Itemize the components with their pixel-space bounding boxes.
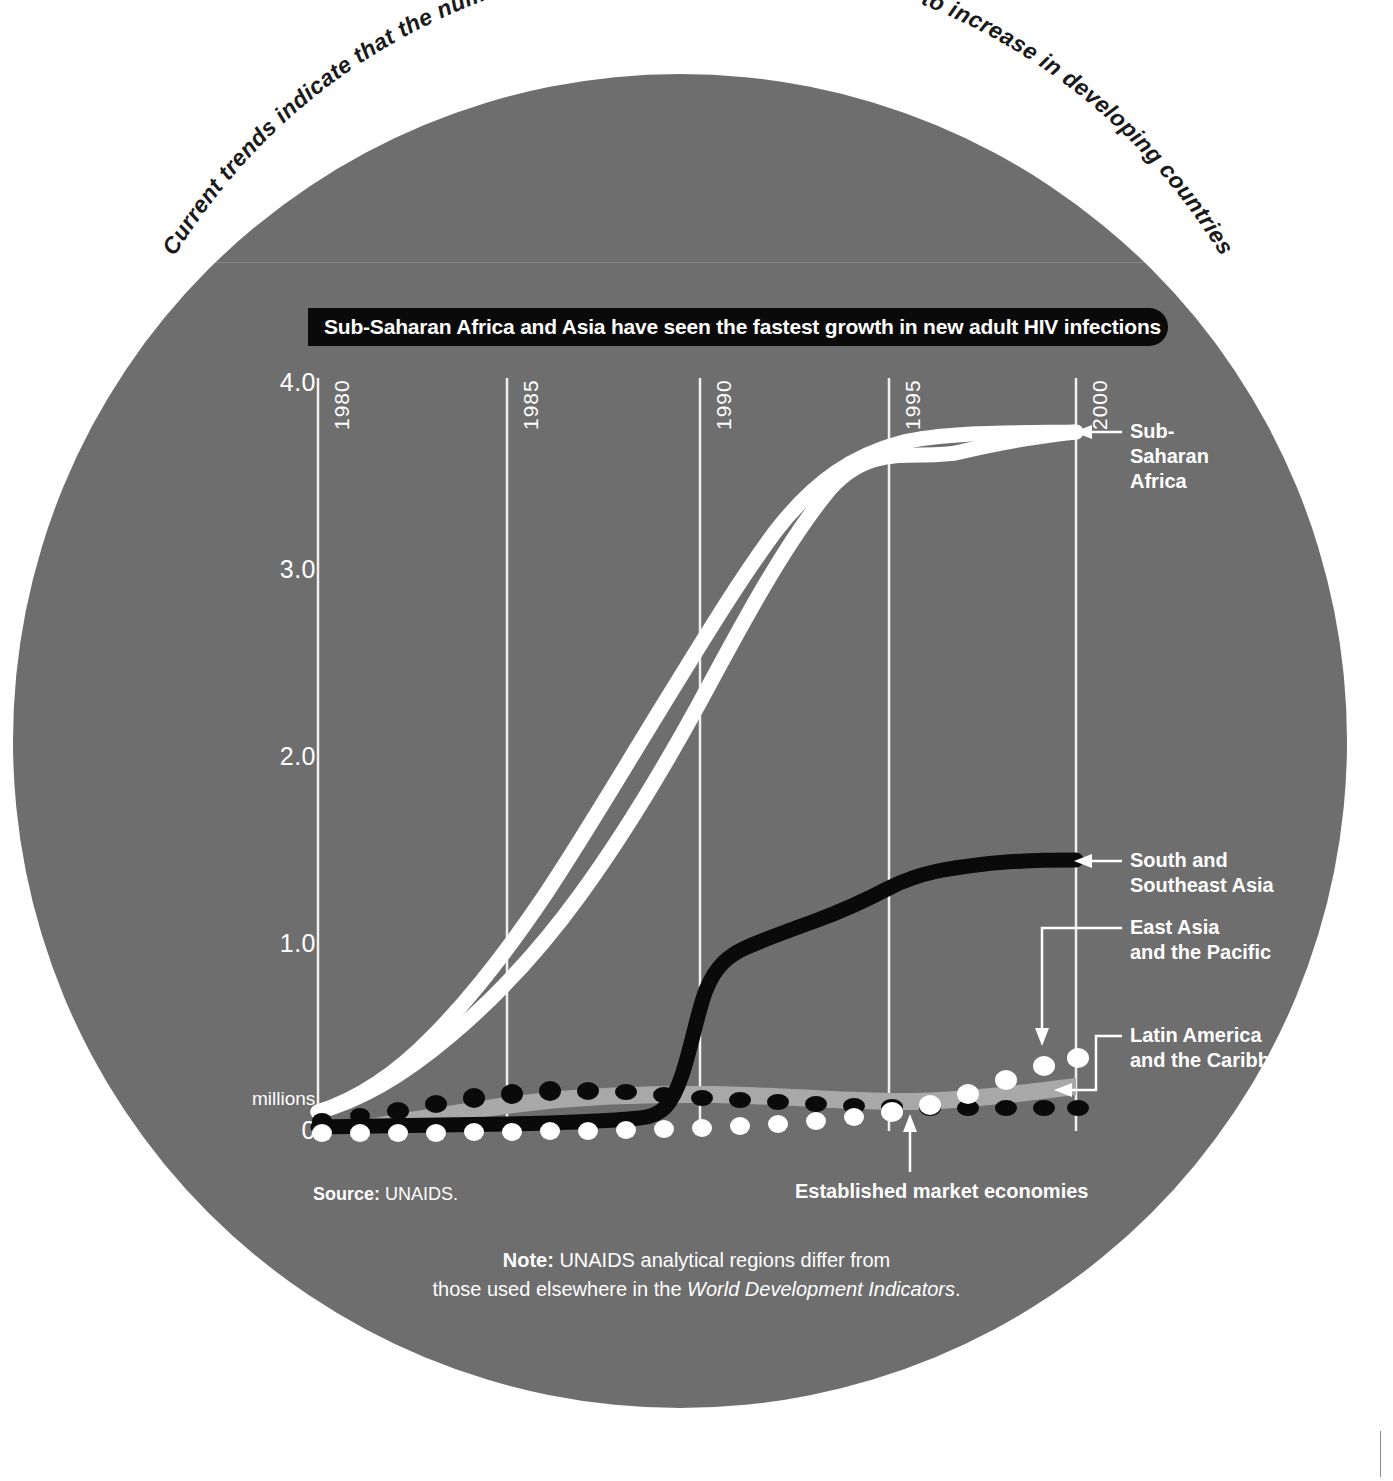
gray-circle-background (13, 74, 1347, 1408)
registration-mark (1380, 1431, 1381, 1477)
y-tick-4: 4.0 (246, 368, 316, 397)
x-tick-1980: 1980 (330, 379, 354, 430)
chart-title-bar: Sub-Saharan Africa and Asia have seen th… (308, 308, 1168, 346)
note-block: Note: UNAIDS analytical regions differ f… (0, 1246, 1393, 1304)
note-line-2: those used elsewhere in the World Develo… (0, 1275, 1393, 1304)
note-line-1: Note: UNAIDS analytical regions differ f… (0, 1246, 1393, 1275)
note-publication-title: World Development Indicators (687, 1278, 955, 1300)
note-label: Note: (503, 1249, 554, 1271)
callout-established-market-economies: Established market economies (795, 1180, 1088, 1203)
hiv-infections-figure: Current trends indicate that the number … (0, 0, 1393, 1481)
scan-artifact-line (310, 160, 1110, 161)
note-line2-post: . (955, 1278, 961, 1300)
source-line: Source: UNAIDS. (313, 1184, 458, 1205)
callout-latin-america-caribbean: Latin America and the Caribbean (1130, 1023, 1304, 1073)
y-tick-1: 1.0 (246, 929, 316, 958)
source-value: UNAIDS. (385, 1184, 458, 1204)
callout-south-southeast-asia: South and Southeast Asia (1130, 848, 1274, 898)
y-tick-3: 3.0 (246, 555, 316, 584)
y-tick-2: 2.0 (246, 742, 316, 771)
callout-sub-saharan-africa: Sub- Saharan Africa (1130, 419, 1209, 494)
note-line2-pre: those used elsewhere in the (432, 1278, 687, 1300)
y-tick-0: 0 (246, 1116, 316, 1145)
source-label: Source: (313, 1184, 380, 1204)
y-axis-unit-label: millions (252, 1088, 315, 1110)
callout-east-asia-pacific: East Asia and the Pacific (1130, 915, 1271, 965)
x-tick-1995: 1995 (901, 379, 925, 430)
note-line1-text: UNAIDS analytical regions differ from (554, 1249, 890, 1271)
x-tick-2000: 2000 (1088, 379, 1112, 430)
chart-title: Sub-Saharan Africa and Asia have seen th… (308, 315, 1161, 339)
scan-artifact-line (180, 262, 1215, 263)
x-tick-1990: 1990 (712, 379, 736, 430)
x-tick-1985: 1985 (519, 379, 543, 430)
